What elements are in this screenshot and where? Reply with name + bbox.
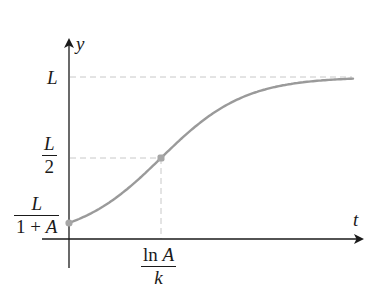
fraction-numerator: L	[29, 194, 44, 213]
fraction-numerator: ln A	[141, 245, 176, 264]
denominator-constant: 1 +	[16, 216, 46, 237]
y-tick-label-half: L 2	[42, 134, 57, 176]
fraction-denominator: 1 + A	[14, 217, 59, 236]
denominator-variable: A	[46, 216, 58, 237]
fraction-denominator: k	[152, 268, 164, 287]
x-tick-label-inflection: ln A k	[141, 245, 176, 287]
logistic-curve	[69, 79, 353, 223]
fraction-numerator: L	[42, 134, 57, 153]
y-axis-label: y	[76, 34, 84, 53]
fraction-denominator: 2	[43, 157, 57, 176]
numerator-function: ln	[143, 244, 163, 265]
y-tick-label-L: L	[47, 68, 58, 87]
inflection-point	[158, 155, 165, 162]
y-tick-label-initial: L 1 + A	[14, 194, 59, 236]
initial-value-point	[65, 219, 72, 226]
numerator-variable: A	[163, 244, 175, 265]
x-axis-label: t	[353, 210, 358, 229]
